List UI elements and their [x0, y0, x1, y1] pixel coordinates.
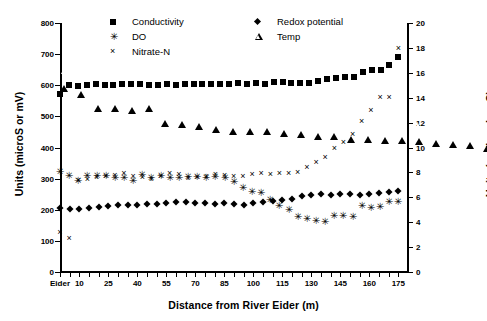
data-point: [195, 106, 203, 130]
data-point: [128, 81, 134, 87]
data-point: ×: [94, 173, 99, 182]
data-point: [230, 201, 237, 208]
plot-area: ✳✳✳✳✳✳✳✳✳✳✳✳✳✳✳✳✳✳✳✳✳✳✳✳✳✳✳✳✳✳✳✳✳✳✳✳✳✳××…: [60, 23, 408, 272]
data-point: [137, 81, 143, 87]
data-point: [369, 67, 375, 73]
x-tick: [302, 272, 303, 277]
data-point: [253, 80, 259, 86]
data-point: [317, 191, 324, 198]
x-tick: [263, 272, 264, 277]
x-tick: [176, 272, 177, 277]
x-tick: [350, 272, 351, 277]
y-tick-label-right: 14: [416, 93, 425, 102]
x-tick: [234, 272, 235, 277]
x-tick-label: 175: [392, 279, 405, 288]
x-tick-label: 40: [133, 279, 142, 288]
data-point: [337, 191, 344, 198]
data-point: [77, 74, 85, 98]
x-tick: [108, 272, 109, 277]
data-point: [226, 81, 232, 87]
x-tick-label: Eider: [50, 279, 70, 288]
data-point: ×: [313, 157, 318, 166]
data-point: [178, 104, 186, 128]
x-tick: [99, 272, 100, 277]
data-point: ✳: [239, 183, 247, 192]
x-tick: [282, 272, 283, 277]
data-point: [288, 80, 294, 86]
data-point: ×: [121, 169, 126, 178]
x-tick: [331, 272, 332, 277]
data-point: [356, 191, 363, 198]
y-tick-label-left: 400: [24, 143, 54, 152]
x-tick: [224, 272, 225, 277]
x-tick: [195, 272, 196, 277]
data-point: ✳: [275, 200, 283, 209]
data-point: [182, 81, 188, 87]
data-point: ✳: [65, 170, 73, 179]
x-tick: [205, 272, 206, 277]
data-point: [360, 69, 366, 75]
data-point: [95, 204, 102, 211]
x-tick: [70, 272, 71, 277]
x-tick-label: 70: [191, 279, 200, 288]
x-tick: [321, 272, 322, 277]
data-point: [297, 80, 303, 86]
x-tick: [340, 272, 341, 277]
y-tick-label-left: 500: [24, 112, 54, 121]
data-point: [351, 74, 357, 80]
x-tick: [369, 272, 370, 277]
y-tick-label-left: 0: [24, 268, 54, 277]
data-point: [395, 188, 402, 195]
x-tick-label: 85: [220, 279, 229, 288]
data-point: ×: [359, 117, 364, 126]
data-point: ×: [332, 143, 337, 152]
data-point: [192, 199, 199, 206]
data-point: [288, 195, 295, 202]
data-point: [398, 120, 406, 144]
data-point: [432, 123, 440, 147]
data-point: [280, 79, 286, 85]
y-tick-label-right: 4: [416, 218, 420, 227]
data-point: [364, 119, 372, 143]
data-point: [378, 67, 384, 73]
y-tick-label-right: 8: [416, 168, 420, 177]
data-point: ✳: [266, 194, 274, 203]
data-point: ×: [304, 162, 309, 171]
data-point: ×: [268, 169, 273, 178]
data-point: ×: [149, 174, 154, 183]
data-point: [208, 81, 214, 87]
data-point: ×: [350, 130, 355, 139]
x-tick-label: 160: [363, 279, 376, 288]
data-point: [211, 200, 218, 207]
y-tick-label-right: 6: [416, 193, 420, 202]
data-point: ✳: [330, 210, 338, 219]
y-tick-label-right: 20: [416, 19, 425, 28]
x-tick: [215, 272, 216, 277]
data-point: ✳: [248, 187, 256, 196]
x-tick-label: 145: [334, 279, 347, 288]
data-point: [164, 81, 170, 87]
x-tick: [166, 272, 167, 277]
x-tick: [118, 272, 119, 277]
x-tick: [253, 272, 254, 277]
data-point: [119, 81, 125, 87]
data-point: ✳: [56, 167, 64, 176]
data-point: [415, 121, 423, 145]
x-tick: [147, 272, 148, 277]
y-tick-label-left: 600: [24, 81, 54, 90]
data-point: [250, 199, 257, 206]
data-point: [385, 188, 392, 195]
data-point: [221, 200, 228, 207]
data-point: ×: [396, 43, 401, 52]
data-point: [381, 120, 389, 144]
data-point: ×: [259, 169, 264, 178]
data-point: ✳: [385, 197, 393, 206]
data-point: ×: [222, 170, 227, 179]
data-point: ✳: [294, 211, 302, 220]
data-point: [244, 81, 250, 87]
y-tick-label-left: 200: [24, 205, 54, 214]
y-tick-right: [407, 272, 413, 273]
data-point: [342, 74, 348, 80]
data-point: [66, 205, 73, 212]
x-tick: [379, 272, 380, 277]
